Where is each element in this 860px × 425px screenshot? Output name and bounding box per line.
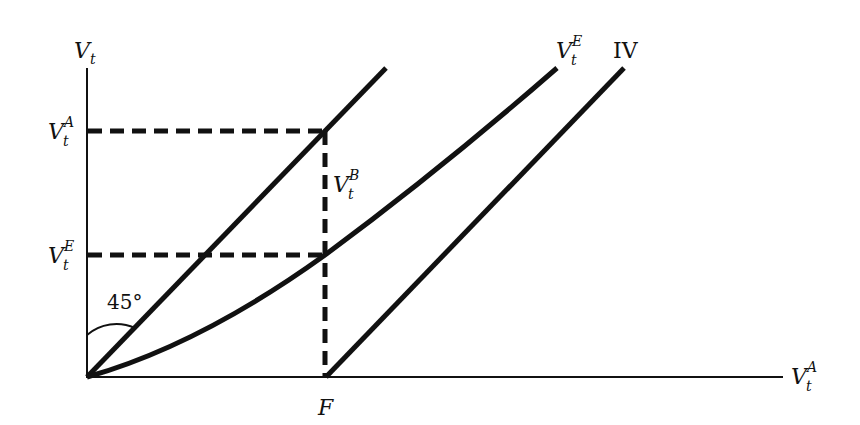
line-iv-label: IV (613, 40, 638, 62)
x-axis-label-sup: A (807, 360, 817, 374)
y-axis-label-sub: t (90, 52, 96, 66)
y-tick-ve-base: V (48, 243, 64, 268)
curve-ve-label: VEt (556, 40, 572, 62)
x-tick-f: F (318, 397, 333, 419)
y-axis-label-base: V (74, 38, 90, 63)
line-45-degree (87, 68, 386, 377)
gap-label-base: V (333, 172, 349, 197)
y-tick-va: VAt (48, 121, 64, 143)
curve-ve (87, 68, 557, 377)
x-axis-label: VAt (791, 366, 807, 388)
y-tick-ve: VEt (48, 245, 64, 267)
angle-label: 45° (107, 292, 142, 312)
y-tick-ve-sup: E (64, 239, 74, 253)
curve-ve-label-sup: E (572, 34, 582, 48)
diagram-canvas (0, 0, 860, 425)
gap-label-sup: B (349, 168, 359, 182)
y-axis-label: Vt (74, 40, 90, 62)
y-tick-va-sup: A (64, 115, 74, 129)
gap-label-vb: VBt (333, 174, 349, 196)
x-axis-label-base: V (791, 364, 807, 389)
curve-ve-label-sub: t (571, 53, 577, 67)
curve-ve-label-base: V (556, 38, 572, 63)
y-tick-va-base: V (48, 119, 64, 144)
gap-label-sub: t (348, 187, 354, 201)
y-tick-ve-sub: t (63, 258, 69, 272)
y-tick-va-sub: t (63, 134, 69, 148)
x-axis-label-sub: t (806, 379, 812, 393)
